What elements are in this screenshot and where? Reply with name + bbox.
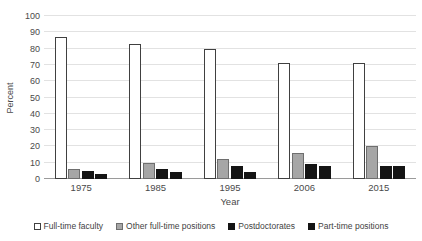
bar	[143, 163, 155, 179]
legend-swatch-icon	[308, 223, 315, 230]
bar	[244, 172, 256, 179]
bar	[278, 63, 290, 179]
bar	[353, 63, 365, 179]
y-axis-tick-label: 20	[30, 142, 40, 151]
legend-swatch-icon	[34, 223, 41, 230]
bar-group	[193, 16, 267, 179]
bar	[129, 44, 141, 179]
y-axis-tick-label: 70	[30, 60, 40, 69]
legend-swatch-icon	[116, 223, 123, 230]
x-axis-title: Year	[44, 196, 416, 207]
x-axis-tick-label: 1975	[71, 182, 92, 193]
bar-group	[44, 16, 118, 179]
bar	[305, 164, 317, 179]
bar	[319, 166, 331, 179]
bar	[82, 171, 94, 179]
y-axis-tick-label: 0	[35, 175, 40, 184]
x-axis-tick-label: 2015	[368, 182, 389, 193]
bar	[156, 169, 168, 179]
chart-legend: Full-time facultyOther full-time positio…	[0, 221, 422, 231]
bar	[292, 153, 304, 179]
bar	[95, 174, 107, 179]
y-axis-tick-label: 60	[30, 77, 40, 86]
y-axis-tick-label: 30	[30, 126, 40, 135]
bar	[204, 49, 216, 179]
bar-group	[267, 16, 341, 179]
bar	[217, 159, 229, 179]
legend-item[interactable]: Postdoctorates	[228, 221, 295, 231]
bar	[68, 169, 80, 179]
bar-chart: Percent 1009080706050403020100 197519851…	[0, 0, 422, 241]
bar	[393, 166, 405, 179]
y-axis-tick-label: 90	[30, 28, 40, 37]
x-axis-tick-label: 1985	[145, 182, 166, 193]
legend-swatch-icon	[228, 223, 235, 230]
bar	[170, 172, 182, 179]
y-axis-title-label: Percent	[5, 82, 15, 113]
bars-layer	[44, 16, 416, 179]
legend-label: Part-time positions	[318, 221, 388, 231]
legend-label: Full-time faculty	[44, 221, 104, 231]
bar	[366, 146, 378, 179]
x-axis-tick-label: 2006	[294, 182, 315, 193]
bar	[380, 166, 392, 179]
bar-group	[118, 16, 192, 179]
y-axis-tick-label: 10	[30, 158, 40, 167]
bar	[231, 166, 243, 179]
y-axis-tick-label: 50	[30, 93, 40, 102]
y-axis-tick-label: 80	[30, 44, 40, 53]
y-axis-tick-label: 100	[25, 12, 40, 21]
legend-item[interactable]: Full-time faculty	[34, 221, 104, 231]
x-axis-tick-labels: 19751985199520062015	[44, 182, 416, 196]
legend-label: Postdoctorates	[238, 221, 295, 231]
legend-label: Other full-time positions	[126, 221, 215, 231]
bar-group	[342, 16, 416, 179]
legend-item[interactable]: Other full-time positions	[116, 221, 215, 231]
plot-area	[44, 16, 416, 179]
legend-item[interactable]: Part-time positions	[308, 221, 388, 231]
y-axis-tick-labels: 1009080706050403020100	[16, 16, 40, 179]
bar	[55, 37, 67, 179]
x-axis-tick-label: 1995	[219, 182, 240, 193]
y-axis-tick-label: 40	[30, 109, 40, 118]
